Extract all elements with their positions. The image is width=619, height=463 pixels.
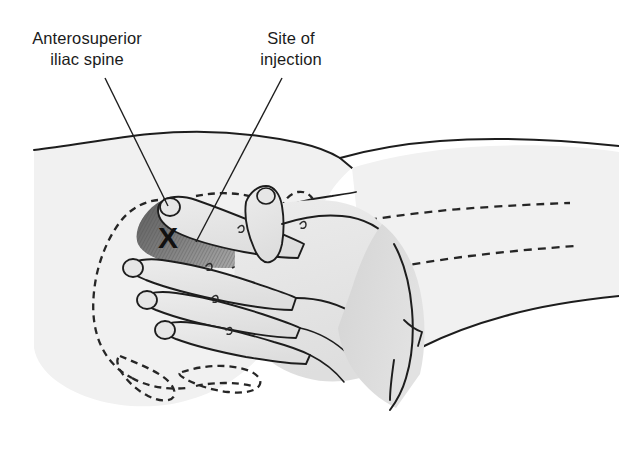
label-anterosuperior-iliac-spine: Anterosuperior iliac spine [8, 28, 166, 70]
injection-x-marker: X [158, 221, 178, 254]
figure-page: X Anterosuperior iliac spine Site of inj… [0, 0, 619, 463]
label-site-of-injection: Site of injection [236, 28, 346, 70]
